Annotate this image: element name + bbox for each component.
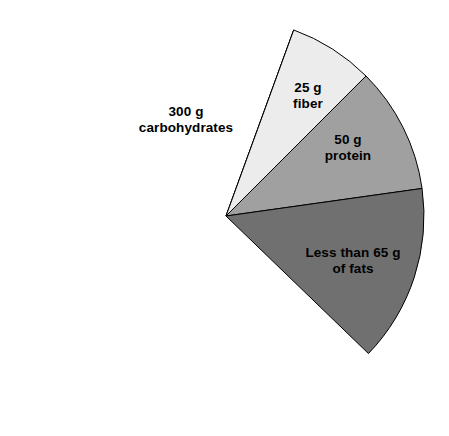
pie-label-fats-line2: of fats bbox=[332, 261, 373, 276]
pie-label-protein-line1: 50 g bbox=[334, 132, 361, 147]
pie-label-carbohydrates-line2: carbohydrates bbox=[139, 120, 233, 135]
pie-label-carbohydrates-line1: 300 g bbox=[168, 104, 203, 119]
pie-chart-figure: 300 gcarbohydrates25 gfiber50 gproteinLe… bbox=[0, 0, 449, 436]
pie-label-protein-line2: protein bbox=[325, 148, 371, 163]
pie-label-fiber-line1: 25 g bbox=[294, 80, 321, 95]
pie-label-fats-line1: Less than 65 g bbox=[305, 245, 400, 260]
pie-label-fiber-line2: fiber bbox=[293, 96, 323, 111]
pie-chart-svg: 300 gcarbohydrates25 gfiber50 gproteinLe… bbox=[0, 0, 449, 436]
pie-label-fiber: 25 gfiber bbox=[293, 80, 323, 111]
